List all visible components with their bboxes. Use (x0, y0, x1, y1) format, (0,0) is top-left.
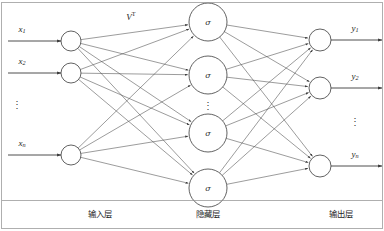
edge-hidden-h2-to-output-y2 (227, 77, 308, 86)
input-node-x2 (61, 63, 81, 83)
output-ellipsis: ⋮ (350, 116, 360, 127)
output-label-y2: y2 (350, 71, 358, 82)
weight-matrix-label: VT (126, 10, 136, 22)
sigma-glyph-h1: σ (205, 18, 211, 27)
edge-hidden-h1-to-output-y1 (227, 25, 308, 38)
input-nodes (61, 31, 81, 165)
edge-hidden-h4-to-output-y2 (222, 96, 311, 175)
edge-input-xn-to-hidden-h1 (78, 36, 193, 148)
layer-caption-output: 输出层 (329, 209, 353, 219)
network-canvas: σσσσ x1x2xny1y2yn⋮⋮⋮VT输入层隐藏层输出层 (0, 0, 384, 231)
output-node-y1 (309, 29, 331, 51)
neural-network-diagram: σσσσ x1x2xny1y2yn⋮⋮⋮VT输入层隐藏层输出层 (0, 0, 384, 231)
sigma-glyph-h4: σ (205, 184, 211, 193)
layer-caption-hidden: 隐藏层 (196, 209, 220, 219)
sigma-glyph-h3: σ (205, 129, 211, 138)
input-node-xn (61, 145, 81, 165)
hidden-ellipsis: ⋮ (203, 100, 213, 111)
edge-input-xn-to-hidden-h4 (81, 157, 189, 183)
output-nodes (309, 29, 331, 177)
input-arrows (8, 41, 61, 155)
output-label-yn: yn (350, 149, 358, 160)
output-label-y1: y1 (350, 23, 358, 34)
edge-input-x2-to-hidden-h2 (81, 73, 188, 75)
edge-hidden-h4-to-output-yn (227, 168, 308, 184)
layer-caption-input: 输入层 (88, 209, 112, 219)
output-node-yn (309, 155, 331, 177)
edges-hidden-to-output (219, 25, 312, 184)
edge-hidden-h2-to-output-y1 (226, 44, 308, 70)
edge-hidden-h4-to-output-y1 (219, 50, 312, 173)
output-arrows (331, 40, 382, 166)
edge-input-x1-to-hidden-h1 (81, 25, 188, 40)
edge-hidden-h3-to-output-y1 (223, 48, 311, 121)
output-node-y2 (309, 77, 331, 99)
input-ellipsis: ⋮ (12, 99, 22, 110)
input-label-x1: x1 (17, 24, 25, 35)
edge-input-x2-to-hidden-h1 (80, 29, 189, 69)
input-label-xn: xn (17, 138, 25, 149)
edge-input-xn-to-hidden-h3 (81, 136, 188, 153)
sigma-glyph-h2: σ (205, 71, 211, 80)
edge-hidden-h3-to-output-yn (226, 138, 308, 162)
edge-input-xn-to-hidden-h2 (80, 85, 191, 150)
input-label-x2: x2 (17, 56, 25, 67)
input-node-x1 (61, 31, 81, 51)
edges-input-to-hidden (78, 25, 194, 183)
